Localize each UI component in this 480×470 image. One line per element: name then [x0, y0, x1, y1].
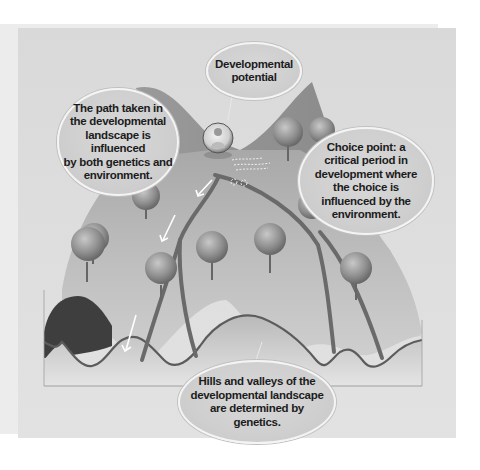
callout-text: Developmental potential: [215, 58, 293, 85]
callout-text: The path taken in the developmental land…: [59, 102, 177, 183]
callout-hills-and-valleys: Hills and valleys of the developmental l…: [178, 360, 336, 444]
callout-path-taken: The path taken in the developmental land…: [57, 88, 179, 196]
callout-developmental-potential: Developmental potential: [206, 42, 302, 100]
callout-choice-point: Choice point: a critical period in devel…: [298, 127, 434, 235]
callout-text: Hills and valleys of the developmental l…: [190, 375, 323, 429]
child-in-bubble-icon: [203, 123, 233, 159]
callout-text: Choice point: a critical period in devel…: [315, 141, 417, 222]
